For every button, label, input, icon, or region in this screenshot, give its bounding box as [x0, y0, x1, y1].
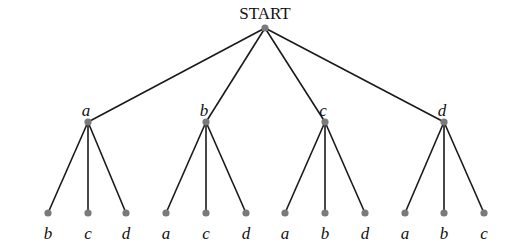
leaf-label-d-c: c	[480, 224, 488, 243]
node-label-c: c	[319, 101, 327, 120]
edges-group	[48, 28, 484, 213]
node-label-a: a	[82, 101, 91, 120]
leaf-label-d-b: b	[440, 224, 449, 243]
leaf-node-b-d	[242, 209, 249, 216]
leaf-node-c-d	[361, 209, 368, 216]
start-node	[261, 24, 268, 31]
leaf-label-c-a: a	[281, 224, 290, 243]
edge-start-to-b	[206, 28, 265, 122]
leaf-node-c-b	[321, 209, 328, 216]
leaf-node-d-c	[480, 209, 487, 216]
labels-group: START abcdbacdcabddabc	[44, 4, 488, 243]
edge-d-to-c	[444, 122, 484, 213]
edge-d-to-a	[405, 122, 444, 213]
leaf-node-d-b	[440, 209, 447, 216]
leaf-label-d-a: a	[401, 224, 410, 243]
edge-c-to-d	[325, 122, 365, 213]
edge-c-to-a	[285, 122, 325, 213]
leaf-label-c-b: b	[321, 224, 330, 243]
edge-a-to-b	[48, 122, 88, 213]
node-label-d: d	[438, 101, 447, 120]
leaf-node-b-a	[162, 209, 169, 216]
edge-a-to-d	[88, 122, 126, 213]
leaf-label-a-d: d	[122, 224, 131, 243]
leaf-label-b-a: a	[162, 224, 171, 243]
edge-start-to-c	[265, 28, 325, 122]
tree-diagram: START abcdbacdcabddabc	[0, 0, 518, 250]
leaf-node-a-b	[44, 209, 51, 216]
leaf-node-d-a	[401, 209, 408, 216]
node-label-b: b	[200, 101, 209, 120]
edge-start-to-d	[265, 28, 444, 122]
leaf-label-b-d: d	[242, 224, 251, 243]
leaf-node-a-c	[84, 209, 91, 216]
edge-b-to-a	[166, 122, 206, 213]
leaf-node-c-a	[281, 209, 288, 216]
leaf-label-a-c: c	[84, 224, 92, 243]
leaf-label-a-b: b	[44, 224, 53, 243]
leaf-label-c-d: d	[361, 224, 370, 243]
leaf-node-a-d	[122, 209, 129, 216]
nodes-group	[44, 24, 487, 216]
edge-start-to-a	[88, 28, 265, 122]
root-label: START	[239, 4, 291, 23]
leaf-label-b-c: c	[202, 224, 210, 243]
leaf-node-b-c	[202, 209, 209, 216]
edge-b-to-d	[206, 122, 246, 213]
